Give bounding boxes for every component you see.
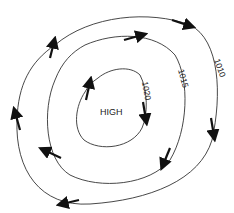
wind-arrow-icon (211, 118, 214, 136)
wind-arrow-icon (163, 148, 170, 165)
wind-arrow-icon (143, 102, 146, 120)
isobar-label-1010: 1010 (212, 57, 228, 78)
wind-arrow-icon (172, 20, 190, 26)
wind-arrow-icon (50, 42, 54, 58)
isobar-label-1020: 1020 (140, 81, 153, 102)
high-pressure-isobar-diagram: 1020 1015 1010 HIGH (0, 0, 234, 213)
isobar-diagram-svg: 1020 1015 1010 HIGH (0, 0, 234, 213)
center-label-high: HIGH (100, 107, 123, 117)
isobar-label-1015: 1015 (176, 68, 191, 89)
wind-arrow-icon (86, 82, 90, 100)
